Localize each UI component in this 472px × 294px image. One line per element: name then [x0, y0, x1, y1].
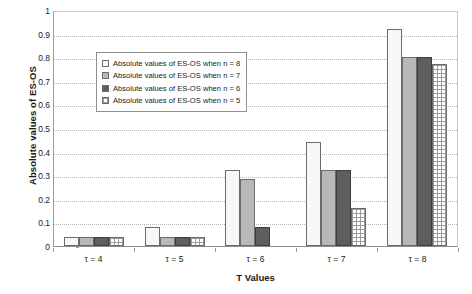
- legend-swatch-icon: [102, 97, 109, 104]
- bar: [109, 237, 124, 246]
- legend-label: Absolute values of ES-OS when n = 5: [113, 96, 240, 105]
- bar: [64, 237, 79, 246]
- bar: [175, 237, 190, 246]
- x-axis-tick-label: τ = 7: [296, 254, 377, 264]
- y-axis-tick-label: 0: [26, 242, 50, 252]
- bar-group: [135, 12, 216, 246]
- legend: Absolute values of ES-OS when n = 8Absol…: [96, 52, 247, 112]
- x-axis-tick-labels: τ = 4τ = 5τ = 6τ = 7τ = 8: [53, 254, 458, 264]
- legend-label: Absolute values of ES-OS when n = 7: [113, 71, 240, 80]
- legend-item[interactable]: Absolute values of ES-OS when n = 8: [102, 57, 240, 70]
- legend-label: Absolute values of ES-OS when n = 8: [113, 59, 240, 68]
- bar: [321, 170, 336, 246]
- x-axis-tick-label: τ = 4: [53, 254, 134, 264]
- x-axis-tick-mark: [134, 248, 135, 252]
- y-axis-tick-label: 0.3: [26, 171, 50, 181]
- legend-swatch-icon: [102, 60, 109, 67]
- bar: [351, 208, 366, 246]
- bar: [336, 170, 351, 246]
- y-axis-tick-labels: 00.10.20.30.40.50.60.70.80.91: [26, 11, 50, 247]
- x-axis-tick-label: τ = 6: [215, 254, 296, 264]
- bar: [255, 227, 270, 246]
- y-axis-tick-label: 0.5: [26, 124, 50, 134]
- x-axis-tick-mark: [458, 248, 459, 252]
- bar: [145, 227, 160, 246]
- bar-groups: [54, 12, 457, 246]
- x-axis-tick-mark: [215, 248, 216, 252]
- legend-swatch-icon: [102, 72, 109, 79]
- legend-item[interactable]: Absolute values of ES-OS when n = 5: [102, 95, 240, 108]
- y-axis-tick-label: 0.7: [26, 77, 50, 87]
- x-axis-tick-mark: [296, 248, 297, 252]
- bar: [240, 179, 255, 246]
- bar: [402, 57, 417, 246]
- x-axis-tick-marks: [53, 248, 458, 253]
- legend-swatch-icon: [102, 85, 109, 92]
- y-axis-tick-label: 1: [26, 6, 50, 16]
- y-axis-tick-label: 0.2: [26, 195, 50, 205]
- y-axis-tick-label: 0.6: [26, 100, 50, 110]
- bar: [387, 29, 402, 246]
- bar: [432, 64, 447, 246]
- bar-chart: Absolute values of ES-OS 00.10.20.30.40.…: [0, 0, 472, 294]
- plot-area: [53, 11, 458, 247]
- x-axis-tick-mark: [377, 248, 378, 252]
- bar: [79, 237, 94, 246]
- legend-label: Absolute values of ES-OS when n = 6: [113, 84, 240, 93]
- y-axis-tick-label: 0.9: [26, 30, 50, 40]
- y-axis-tick-label: 0.1: [26, 218, 50, 228]
- x-axis-title: T Values: [53, 272, 458, 283]
- bar-group: [296, 12, 377, 246]
- bar-group: [376, 12, 457, 246]
- bar: [225, 170, 240, 246]
- bar: [190, 237, 205, 246]
- x-axis-tick-label: τ = 5: [134, 254, 215, 264]
- bar: [417, 57, 432, 246]
- y-axis-tick-label: 0.4: [26, 148, 50, 158]
- bar-group: [54, 12, 135, 246]
- x-axis-tick-mark: [53, 248, 54, 252]
- y-axis-tick-label: 0.8: [26, 53, 50, 63]
- legend-item[interactable]: Absolute values of ES-OS when n = 6: [102, 82, 240, 95]
- legend-item[interactable]: Absolute values of ES-OS when n = 7: [102, 70, 240, 83]
- bar-group: [215, 12, 296, 246]
- bar: [94, 237, 109, 246]
- bar: [306, 142, 321, 246]
- bar: [160, 237, 175, 246]
- x-axis-tick-label: τ = 8: [377, 254, 458, 264]
